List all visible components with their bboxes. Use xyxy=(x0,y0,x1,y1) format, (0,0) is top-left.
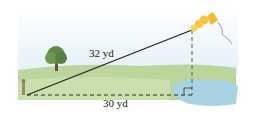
pond xyxy=(172,80,238,106)
grass-highlight xyxy=(18,77,170,100)
hypotenuse-label: 32 yd xyxy=(89,47,114,59)
person-icon xyxy=(22,79,26,95)
base-label: 30 yd xyxy=(103,97,128,109)
